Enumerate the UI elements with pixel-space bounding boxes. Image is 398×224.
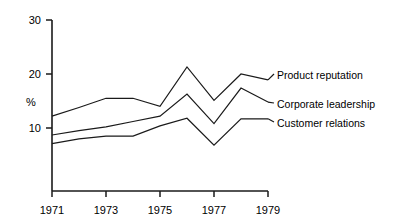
y-tick-label-30: 30 [29, 14, 41, 26]
line-chart: 30 20 10 % 1971 1973 1975 1977 1979 Prod… [0, 0, 398, 224]
x-tick-label-1977: 1977 [202, 204, 226, 216]
y-axis-title: % [26, 96, 36, 108]
x-tick-label-1971: 1971 [40, 204, 64, 216]
leader-line-corporate-leadership [268, 102, 274, 103]
series-line-customer-relations [52, 118, 268, 145]
legend-label-product-reputation: Product reputation [277, 70, 363, 81]
legend-label-corporate-leadership: Corporate leadership [277, 99, 375, 110]
chart-canvas: 30 20 10 % 1971 1973 1975 1977 1979 [0, 0, 398, 224]
y-tick-label-10: 10 [29, 122, 41, 134]
leader-line-product-reputation [268, 74, 274, 80]
series-line-corporate-leadership [52, 88, 268, 135]
x-tick-label-1973: 1973 [94, 204, 118, 216]
y-tick-label-20: 20 [29, 68, 41, 80]
leader-line-customer-relations [268, 119, 274, 122]
series-line-product-reputation [52, 67, 268, 116]
legend-label-customer-relations: Customer relations [277, 118, 365, 129]
x-tick-label-1975: 1975 [148, 204, 172, 216]
x-tick-label-1979: 1979 [256, 204, 280, 216]
